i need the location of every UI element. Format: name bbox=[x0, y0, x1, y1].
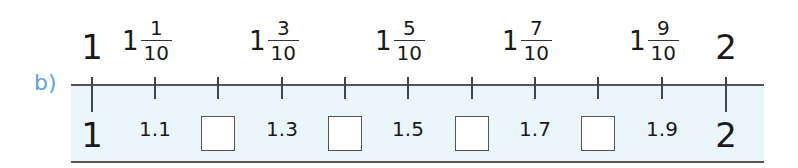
bottom-label-decimal: 1.3 bbox=[266, 117, 298, 141]
tick-mark bbox=[91, 77, 93, 112]
fraction: 910 bbox=[648, 18, 679, 63]
number-line bbox=[71, 84, 764, 86]
numerator: 1 bbox=[147, 18, 166, 40]
tick-mark bbox=[725, 77, 727, 112]
whole-part: 1 bbox=[629, 26, 646, 56]
tick-mark bbox=[661, 77, 663, 99]
fraction: 510 bbox=[394, 18, 425, 63]
top-label-mixed-fraction: 1310 bbox=[249, 18, 299, 63]
denominator: 10 bbox=[648, 40, 679, 63]
answer-box[interactable] bbox=[328, 116, 362, 151]
tick-mark bbox=[407, 77, 409, 99]
bottom-rule bbox=[71, 161, 764, 163]
denominator: 10 bbox=[521, 40, 552, 63]
tick-mark bbox=[217, 77, 219, 99]
answer-box[interactable] bbox=[455, 116, 489, 151]
whole-part: 1 bbox=[502, 26, 519, 56]
top-label-mixed-fraction: 1910 bbox=[629, 18, 679, 63]
numerator: 5 bbox=[400, 18, 419, 40]
top-label-mixed-fraction: 1110 bbox=[122, 18, 172, 63]
bottom-label-decimal: 1.1 bbox=[139, 117, 171, 141]
answer-box[interactable] bbox=[201, 116, 235, 151]
exercise-label: b) bbox=[34, 70, 57, 95]
whole-part: 1 bbox=[249, 26, 266, 56]
bottom-label-decimal: 1.7 bbox=[519, 117, 551, 141]
whole-part: 1 bbox=[375, 26, 392, 56]
top-label-mixed-fraction: 1510 bbox=[375, 18, 425, 63]
tick-mark bbox=[597, 77, 599, 99]
fraction: 710 bbox=[521, 18, 552, 63]
bottom-label-decimal: 1.9 bbox=[646, 117, 678, 141]
numerator: 9 bbox=[654, 18, 673, 40]
top-label-whole: 2 bbox=[715, 30, 737, 64]
top-label-whole: 1 bbox=[81, 30, 103, 64]
top-label-mixed-fraction: 1710 bbox=[502, 18, 552, 63]
numerator: 7 bbox=[527, 18, 546, 40]
bottom-label-whole: 1 bbox=[81, 118, 103, 152]
whole-part: 1 bbox=[122, 26, 139, 56]
fraction: 110 bbox=[141, 18, 172, 63]
denominator: 10 bbox=[394, 40, 425, 63]
tick-mark bbox=[471, 77, 473, 99]
fraction: 310 bbox=[268, 18, 299, 63]
tick-mark bbox=[281, 77, 283, 99]
tick-mark bbox=[534, 77, 536, 99]
numerator: 3 bbox=[274, 18, 293, 40]
bottom-label-decimal: 1.5 bbox=[392, 117, 424, 141]
bottom-label-whole: 2 bbox=[715, 118, 737, 152]
denominator: 10 bbox=[268, 40, 299, 63]
tick-mark bbox=[154, 77, 156, 99]
denominator: 10 bbox=[141, 40, 172, 63]
answer-box[interactable] bbox=[581, 116, 615, 151]
tick-mark bbox=[344, 77, 346, 99]
